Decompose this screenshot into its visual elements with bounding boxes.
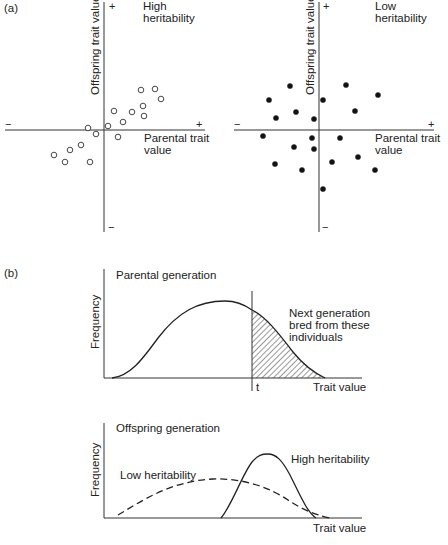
data-point [311,146,316,151]
data-point [352,108,357,113]
data-point [111,108,117,114]
data-point [309,135,314,140]
data-point [152,86,158,92]
data-point [62,159,68,165]
data-point [158,96,164,102]
data-point [105,123,111,129]
xlabel-line1: Parental trait [144,132,210,144]
data-point [78,142,84,148]
ylabel: Frequency [89,442,101,497]
data-point [287,83,292,88]
data-point [85,125,91,131]
title-line2: heritability [375,12,427,24]
data-point [375,92,380,97]
data-point [272,161,277,166]
y-minus: − [322,221,328,233]
data-point [355,154,360,159]
chart-title: Offspring generation [116,422,220,434]
annotation-line1: Next generation [289,307,370,319]
threshold-label: t [256,381,260,393]
title-line1: Low [375,0,397,12]
data-point [266,97,271,102]
data-point [311,116,316,121]
data-point [299,167,304,172]
data-point [93,131,99,137]
title-line2: heritability [143,12,195,24]
ylabel: Offspring trait value [304,0,316,95]
data-point [115,134,121,140]
data-points [260,82,380,191]
annotation-line3: individuals [289,331,343,343]
data-point [120,119,126,125]
xlabel-line2: value [144,144,172,156]
data-point [141,113,147,119]
y-plus: + [323,0,329,12]
low-heritability-curve [118,479,330,518]
data-point [129,109,135,115]
high-heritability-label: High heritability [291,453,370,465]
x-plus: + [428,118,434,130]
data-point [329,159,334,164]
data-point [260,133,265,138]
figure: (a) + − − + High heritability Parental t… [0,0,448,545]
offspring-distribution: Offspring generation Frequency Trait val… [89,422,370,534]
xlabel-line2: value [375,144,403,156]
data-point [320,97,325,102]
data-point [87,159,93,165]
data-point [320,186,325,191]
data-point [293,109,298,114]
ylabel: Frequency [89,294,101,349]
scatter-low-heritability: + − − + Low heritability Parental trait … [234,0,441,233]
scatter-high-heritability: + − − + High heritability Parental trait… [5,0,210,233]
data-point [273,115,278,120]
data-point [51,152,57,158]
chart-title: Parental generation [116,269,216,281]
data-point [67,147,73,153]
parental-distribution: Parental generation Frequency Trait valu… [89,269,370,393]
xlabel: Trait value [313,381,366,393]
low-heritability-label: Low heritability [120,469,196,481]
x-minus: − [5,118,11,130]
xlabel: Trait value [313,522,366,534]
title-line1: High [143,0,167,12]
data-point [343,82,348,87]
annotation-line2: bred from these [289,319,370,331]
data-point [140,103,146,109]
x-plus: + [196,118,202,130]
xlabel-line1: Parental trait [375,132,441,144]
panel-b-label: (b) [4,267,18,279]
data-point [372,167,377,172]
data-point [138,87,144,93]
data-point [291,144,296,149]
data-point [337,135,342,140]
y-minus: − [108,221,114,233]
x-minus: − [234,118,240,130]
ylabel: Offspring trait value [89,0,101,95]
panel-a-label: (a) [4,2,18,14]
y-plus: + [109,0,115,12]
